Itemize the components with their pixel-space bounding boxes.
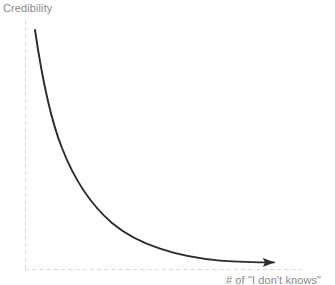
y-axis-label: Credibility xyxy=(3,2,52,15)
chart-canvas xyxy=(0,0,335,285)
x-axis-label: # of "I don't knows" xyxy=(226,274,321,285)
chart-container: Credibility # of "I don't knows" xyxy=(0,0,335,285)
credibility-decay-curve xyxy=(35,30,274,262)
